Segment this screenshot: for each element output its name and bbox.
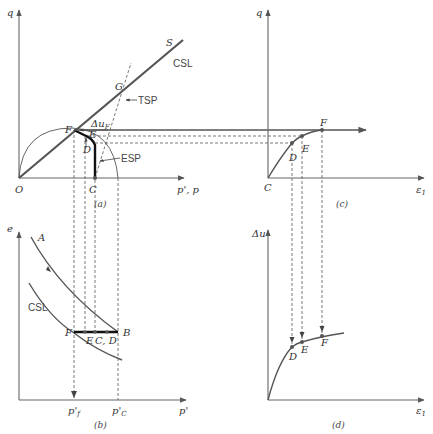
d-d-label: D [288, 351, 297, 362]
panel-a: q O C D E F G S CSL TSP ESP ΔuF p', p (a… [7, 7, 366, 209]
b-b-label: B [122, 327, 130, 338]
a-csl-line [19, 40, 183, 178]
b-point-c [93, 330, 97, 334]
proj-d-arrowhead [290, 337, 295, 343]
b-point-d [105, 330, 109, 334]
a-c-label: C [89, 184, 97, 195]
panel-d: Δu D E F ε1 (d) [251, 228, 426, 430]
c-q-label: q [256, 7, 262, 18]
a-e-label: E [88, 129, 97, 140]
c-origin-label: C [264, 182, 272, 193]
soil-mechanics-figure: q O C D E F G S CSL TSP ESP ΔuF p', p (a… [0, 0, 433, 434]
b-e-point-label: E [85, 335, 94, 346]
a-tsp-label: TSP [138, 95, 158, 106]
a-csl-label: CSL [173, 58, 193, 69]
d-caption: (d) [332, 420, 345, 430]
figure-svg: q O C D E F G S CSL TSP ESP ΔuF p', p (a… [0, 0, 433, 434]
c-f-label: F [319, 117, 328, 128]
panel-c: q C D E F ε1 (c) [256, 7, 426, 209]
b-csl-label: CSL [28, 302, 48, 313]
a-g-label: G [115, 81, 123, 92]
b-a-label: A [37, 232, 45, 243]
b-caption: (b) [94, 420, 107, 430]
d-du-label: Δu [251, 228, 266, 239]
a-point-c [93, 176, 97, 180]
d-x-label: ε1 [416, 405, 426, 418]
b-a-curve [31, 237, 118, 332]
d-e-label: E [300, 344, 309, 355]
c-caption: (c) [336, 199, 349, 209]
a-origin-label: O [15, 184, 23, 195]
a-esp-label: ESP [121, 153, 141, 164]
a-s-label: S [166, 37, 173, 48]
a-d-label: D [82, 144, 91, 155]
a-f-label: F [64, 124, 73, 135]
b-csl-curve [29, 283, 122, 360]
c-d-label: D [288, 152, 297, 163]
b-pf-label: p'f [68, 405, 81, 418]
proj-e-arrowhead [300, 332, 305, 338]
b-point-e [83, 330, 87, 334]
a-caption: (a) [94, 199, 107, 209]
d-f-label: F [320, 337, 329, 348]
b-pc-label: p'C [112, 405, 127, 418]
b-x-label: p' [179, 405, 188, 416]
d-point-d [290, 345, 294, 349]
a-x-label: p', p [177, 184, 200, 195]
b-cd-label: C, D [95, 335, 117, 346]
b-e-label: e [7, 223, 13, 234]
proj-f-arrowhead [71, 391, 77, 398]
panel-b: e A CSL F E C, D B p'f p'C p' (b) [7, 223, 188, 430]
c-x-label: ε1 [416, 184, 426, 197]
b-f-label: F [64, 327, 73, 338]
a-esp-pointer [100, 158, 120, 161]
a-q-label: q [7, 7, 13, 18]
proj-f-arrowhead [320, 326, 325, 332]
